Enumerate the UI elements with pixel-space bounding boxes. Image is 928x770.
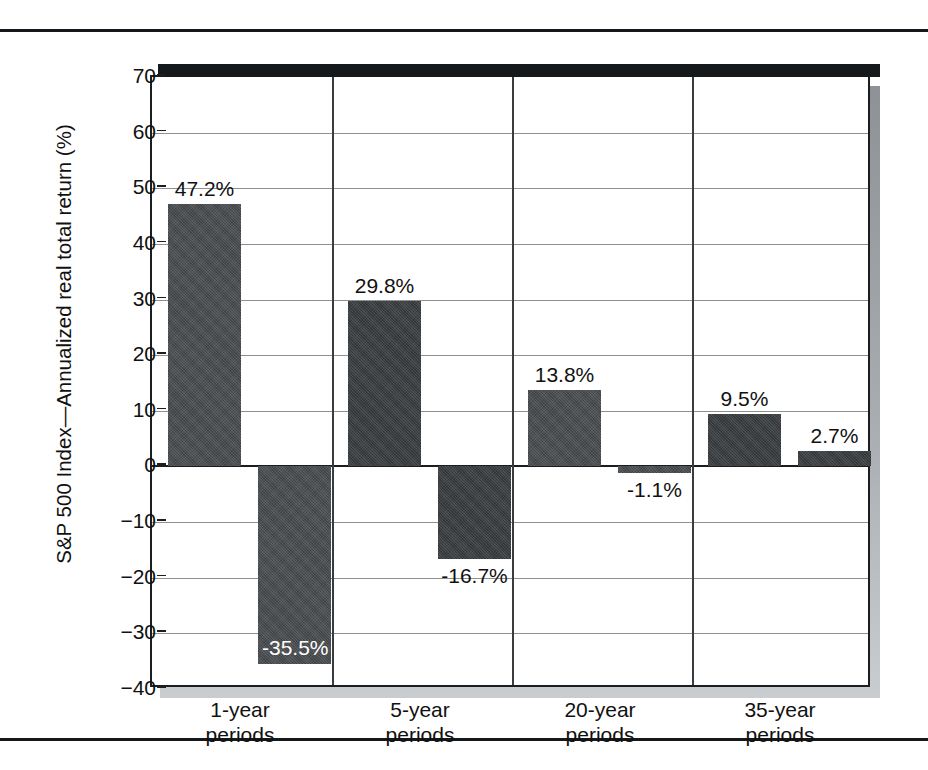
bar-2-worst [618, 466, 691, 472]
y-axis-tick-label: 30 [60, 288, 156, 309]
plot-top-cap [158, 64, 880, 77]
y-axis-tick-label: −20 [60, 566, 156, 587]
category-line-primary: 5-year [330, 697, 510, 722]
y-axis-tick-label: 10 [60, 399, 156, 420]
group-separator [512, 77, 514, 685]
y-axis-tick-mark [157, 241, 166, 243]
y-axis-tick-label: −10 [60, 510, 156, 531]
bar-value-label: -1.1% [618, 479, 691, 500]
y-axis-tick-mark [157, 463, 166, 465]
y-axis-tick-label: 50 [60, 176, 156, 197]
y-axis-tick-mark [157, 630, 166, 632]
y-axis-tick-label: 40 [60, 232, 156, 253]
gridline [152, 188, 868, 189]
group-separator [692, 77, 694, 685]
y-axis-tick-mark [157, 686, 166, 688]
bar-0-worst [258, 466, 331, 664]
bar-value-label: 9.5% [708, 388, 781, 409]
bar-value-label: 47.2% [168, 178, 241, 199]
y-axis-tick-mark [157, 519, 166, 521]
gridline [152, 133, 868, 134]
bar-3-best [708, 414, 781, 467]
bar-1-worst [438, 466, 511, 559]
y-axis-tick-mark [157, 352, 166, 354]
y-axis-tick-label: 60 [60, 121, 156, 142]
bar-0-best [168, 204, 241, 467]
gridline [152, 244, 868, 245]
y-axis-tick-mark [157, 185, 166, 187]
y-axis-tick-label: 0 [60, 454, 156, 475]
gridline [152, 411, 868, 412]
plot-area: 47.2%-35.5%29.8%-16.7%13.8%-1.1%9.5%2.7%… [150, 75, 870, 687]
y-axis-tick-label: 70 [60, 65, 156, 86]
bar-value-label: 13.8% [528, 364, 601, 385]
y-axis-tick-mark [157, 74, 166, 76]
category-line-secondary: periods [690, 722, 870, 747]
category-line-secondary: periods [150, 722, 330, 747]
y-axis-tick-mark [157, 575, 166, 577]
x-axis-category-label-3: 35-yearperiods [690, 697, 870, 747]
category-line-primary: 35-year [690, 697, 870, 722]
bar-value-label: 29.8% [348, 275, 421, 296]
bar-1-best [348, 301, 421, 467]
x-axis-category-label-1: 5-yearperiods [330, 697, 510, 747]
y-axis-tick-mark [157, 297, 166, 299]
bar-value-label: 2.7% [798, 425, 871, 446]
plot-canvas: 47.2%-35.5%29.8%-16.7%13.8%-1.1%9.5%2.7% [150, 75, 870, 687]
gridline [152, 355, 868, 356]
category-line-secondary: periods [510, 722, 690, 747]
bar-chart-figure: S&P 500 Index—Annualized real total retu… [0, 32, 928, 738]
y-axis-tick-mark [157, 408, 166, 410]
bar-value-label: -35.5% [262, 637, 335, 658]
caption-sliver [6, 762, 922, 770]
bar-value-label: -16.7% [438, 565, 511, 586]
category-line-secondary: periods [330, 722, 510, 747]
bar-2-best [528, 390, 601, 467]
category-line-primary: 20-year [510, 697, 690, 722]
x-axis-category-label-2: 20-yearperiods [510, 697, 690, 747]
y-axis-tick-label: −40 [60, 677, 156, 698]
category-line-primary: 1-year [150, 697, 330, 722]
y-axis-tick-label: 20 [60, 343, 156, 364]
x-axis-category-label-0: 1-yearperiods [150, 697, 330, 747]
y-axis-tick-mark [157, 130, 166, 132]
bar-3-worst [798, 451, 871, 466]
y-axis-tick-label: −30 [60, 621, 156, 642]
gridline [152, 300, 868, 301]
group-separator [332, 77, 334, 685]
